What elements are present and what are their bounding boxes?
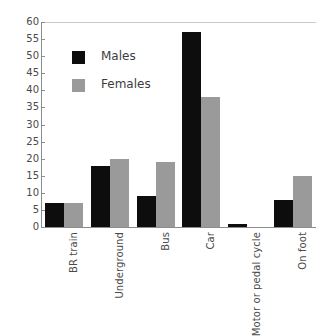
bar-group: [137, 22, 175, 227]
y-axis-tick-label: 40: [14, 85, 39, 95]
y-axis-tick-label: 5: [14, 205, 39, 215]
bar-male: [274, 200, 293, 227]
y-axis-tick-mark: [41, 227, 45, 228]
x-axis-label: Motor or pedal cycle: [251, 232, 262, 336]
y-axis-tick-label: 55: [14, 34, 39, 44]
bar-female: [201, 97, 220, 227]
bar-group: [228, 22, 266, 227]
bar-group: [274, 22, 312, 227]
bar-female: [64, 203, 83, 227]
y-axis-tick-label: 60: [14, 17, 39, 27]
y-axis-tick-label: 25: [14, 137, 39, 147]
y-axis-tick-label: 50: [14, 51, 39, 61]
y-axis-tick-label: 10: [14, 188, 39, 198]
bar-female: [110, 159, 129, 227]
bar-female: [156, 162, 175, 227]
x-axis-label: BR train: [68, 232, 79, 273]
bar-male: [182, 32, 201, 227]
y-axis-tick-label: 30: [14, 120, 39, 130]
male-swatch-icon: [72, 51, 85, 64]
x-axis-label: Underground: [114, 232, 125, 299]
y-axis-tick-label: 35: [14, 102, 39, 112]
y-axis-tick-label: 15: [14, 171, 39, 181]
bar-male: [228, 224, 247, 227]
bar-chart: 605550454035302520151050 BR trainUndergr…: [0, 0, 320, 336]
bar-group: [182, 22, 220, 227]
y-axis-tick-label: 20: [14, 154, 39, 164]
y-axis-tick-label: 0: [14, 222, 39, 232]
bar-male: [45, 203, 64, 227]
bar-male: [137, 196, 156, 227]
x-axis-label: Bus: [160, 232, 171, 251]
x-axis-label: Car: [205, 232, 216, 250]
x-axis-line: [41, 227, 316, 228]
female-swatch-icon: [72, 79, 85, 92]
legend-label-females: Females: [101, 77, 151, 91]
x-axis-label: On foot: [297, 232, 308, 270]
legend-label-males: Males: [101, 49, 136, 63]
bar-female: [293, 176, 312, 227]
bar-male: [91, 166, 110, 228]
y-axis-tick-label: 45: [14, 68, 39, 78]
